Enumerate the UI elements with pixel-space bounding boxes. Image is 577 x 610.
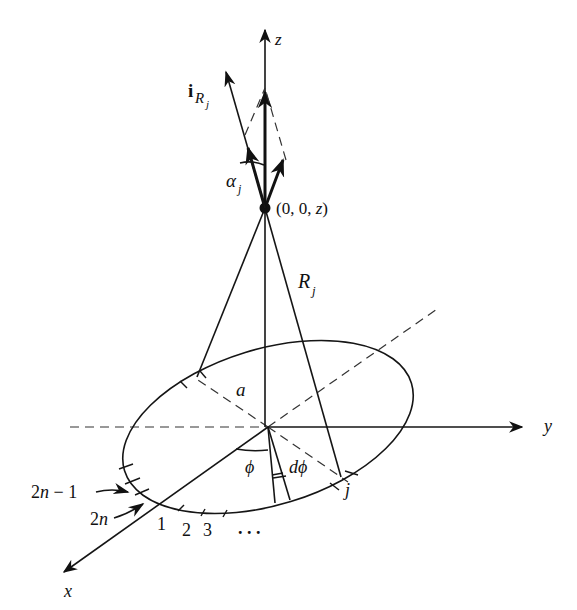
arrow-2n-minus-1 <box>96 490 128 492</box>
element-2-label: 2 <box>182 520 191 540</box>
svg-text:j: j <box>310 283 316 298</box>
svg-text:i: i <box>188 80 193 101</box>
dphi-right-angle <box>272 473 283 475</box>
element-j-label: j <box>343 480 350 500</box>
line-to-opposite-source <box>197 208 265 377</box>
svg-text:(0, 0, z): (0, 0, z) <box>276 199 328 218</box>
ellipsis-label: . . . <box>238 518 261 538</box>
element-1-label: 1 <box>157 514 166 534</box>
element-2n-minus-1-label: 2n − 1 <box>31 482 77 502</box>
arrow-2n <box>114 504 143 518</box>
z-axis-label: z <box>274 30 282 49</box>
alpha-label: α j <box>226 170 242 196</box>
svg-text:j: j <box>236 182 242 196</box>
y-axis-label: y <box>542 416 552 436</box>
ring-sources-diagram: z y x i R j α j (0, 0, z) R j a ϕ dϕ j 2… <box>0 0 577 610</box>
element-2n-label: 2n <box>90 509 108 529</box>
element-3-label: 3 <box>203 520 212 540</box>
svg-text:α: α <box>226 170 237 191</box>
negative-x-axis-dashed <box>268 307 440 427</box>
unit-vector-label: i R j <box>188 80 209 110</box>
parallelogram-dash-left <box>245 88 265 135</box>
svg-text:R: R <box>194 90 204 106</box>
phi-arc <box>236 449 268 451</box>
radius-a-dashed <box>198 380 268 427</box>
distance-label: R j <box>297 270 316 298</box>
phi-label: ϕ <box>245 457 254 477</box>
x-axis-label: x <box>63 581 72 601</box>
parallelogram-dash-right <box>265 88 286 160</box>
line-R-j <box>265 208 341 477</box>
dphi-label: dϕ <box>289 457 307 477</box>
dashed-axes <box>70 307 440 482</box>
radius-label: a <box>236 379 246 400</box>
svg-text:j: j <box>204 98 209 110</box>
svg-text:R: R <box>297 270 310 292</box>
point-label: (0, 0, z) <box>276 199 328 218</box>
